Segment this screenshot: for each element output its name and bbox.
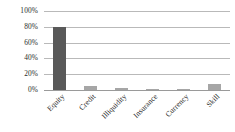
x-axis: EquityCreditIlliquidityInsuranceCurrency… (44, 90, 230, 132)
x-tick-slot: Equity (44, 90, 75, 132)
bar-slot (146, 11, 159, 90)
y-tick-label: 100% (20, 7, 38, 14)
y-tick-label: 0% (28, 86, 38, 93)
y-tick-label: 80% (24, 23, 38, 30)
bar-slot (208, 11, 221, 90)
plot-area (44, 11, 230, 90)
bar-slot (53, 11, 66, 90)
y-tick-label: 40% (24, 55, 38, 62)
x-tick-label-skill: Skill (204, 92, 221, 109)
bar-slot (115, 11, 128, 90)
bar-slot (177, 11, 190, 90)
x-tick-slot: Skill (199, 90, 230, 132)
x-tick-label-equity: Equity (45, 92, 66, 113)
bar-chart: 0%20%40%60%80%100% EquityCreditIlliquidi… (0, 0, 235, 132)
y-axis: 0%20%40%60%80%100% (0, 11, 42, 90)
bar-equity (53, 27, 66, 90)
y-tick-label: 20% (24, 70, 38, 77)
x-tick-slot: Currency (168, 90, 199, 132)
bar-series (44, 11, 230, 90)
x-tick-label-credit: Credit (77, 92, 97, 112)
bar-slot (84, 11, 97, 90)
y-tick-label: 60% (24, 39, 38, 46)
